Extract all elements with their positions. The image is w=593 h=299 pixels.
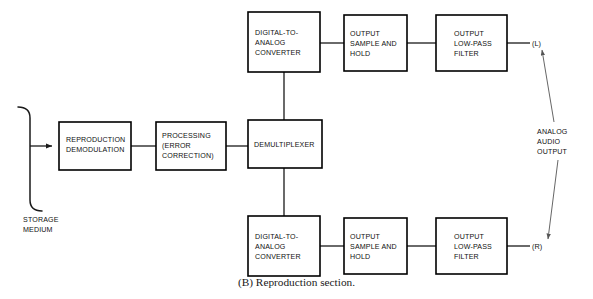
block-diagram: REPRODUCTION DEMODULATION PROCESSING (ER…	[0, 0, 593, 299]
analog-output-line: OUTPUT	[537, 148, 568, 156]
storage-medium-label: STORAGE MEDIUM	[23, 216, 59, 234]
block-label-line: SAMPLE AND	[350, 243, 397, 251]
block-label-line: ANALOG	[255, 39, 285, 47]
storage-medium-line: STORAGE	[23, 216, 59, 224]
block-processing-error-correction[interactable]: PROCESSING (ERROR CORRECTION)	[156, 122, 226, 170]
block-label-line: (ERROR	[162, 142, 191, 150]
right-channel-label: (R)	[532, 242, 542, 251]
block-label-line: SAMPLE AND	[350, 40, 397, 48]
block-label-line: OUTPUT	[454, 233, 485, 241]
block-label-line: DIGITAL-TO-	[255, 29, 299, 37]
analog-audio-output-label: ANALOG AUDIO OUTPUT	[537, 128, 568, 156]
block-label-line: OUTPUT	[454, 30, 485, 38]
block-label-line: OUTPUT	[350, 233, 381, 241]
block-low-pass-left[interactable]: OUTPUT LOW-PASS FILTER	[436, 15, 507, 71]
block-sample-hold-right[interactable]: OUTPUT SAMPLE AND HOLD	[344, 218, 407, 274]
figure-container: REPRODUCTION DEMODULATION PROCESSING (ER…	[0, 0, 593, 299]
block-label-line: DIGITAL-TO-	[255, 233, 299, 241]
block-label-line: DEMULTIPLEXER	[254, 141, 315, 149]
block-label-line: OUTPUT	[350, 30, 381, 38]
block-dac-right[interactable]: DIGITAL-TO- ANALOG CONVERTER	[248, 216, 320, 276]
analog-output-line: AUDIO	[537, 138, 561, 146]
block-label-line: CONVERTER	[255, 49, 301, 57]
block-label-line: HOLD	[350, 50, 370, 58]
block-demultiplexer[interactable]: DEMULTIPLEXER	[248, 120, 322, 168]
figure-caption: (B) Reproduction section.	[0, 276, 593, 288]
left-channel-label: (L)	[532, 39, 541, 48]
block-label-line: LOW-PASS	[454, 40, 492, 48]
block-label-line: CONVERTER	[255, 253, 301, 261]
block-label-line: ANALOG	[255, 243, 285, 251]
block-label-line: FILTER	[454, 253, 479, 261]
block-label-line: PROCESSING	[162, 132, 211, 140]
block-low-pass-right[interactable]: OUTPUT LOW-PASS FILTER	[436, 218, 507, 274]
analog-output-line: ANALOG	[537, 128, 567, 136]
block-reproduction-demodulation[interactable]: REPRODUCTION DEMODULATION	[59, 122, 131, 170]
storage-medium-bracket	[18, 107, 42, 211]
block-dac-left[interactable]: DIGITAL-TO- ANALOG CONVERTER	[248, 12, 320, 72]
block-label-line: CORRECTION)	[162, 152, 214, 160]
block-label-line: FILTER	[454, 50, 479, 58]
block-label-line: HOLD	[350, 253, 370, 261]
storage-medium-line: MEDIUM	[23, 226, 53, 234]
block-label-line: LOW-PASS	[454, 243, 492, 251]
block-label-line: DEMODULATION	[66, 146, 124, 154]
block-label-line: REPRODUCTION	[66, 136, 125, 144]
block-sample-hold-left[interactable]: OUTPUT SAMPLE AND HOLD	[344, 15, 407, 71]
